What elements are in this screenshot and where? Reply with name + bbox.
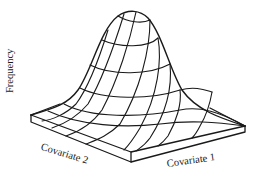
surface-plot xyxy=(0,0,261,185)
surface-grid-lines-2 xyxy=(42,12,212,151)
surface-grid-lines-1 xyxy=(48,16,245,126)
y-axis-label: Frequency xyxy=(4,49,15,93)
